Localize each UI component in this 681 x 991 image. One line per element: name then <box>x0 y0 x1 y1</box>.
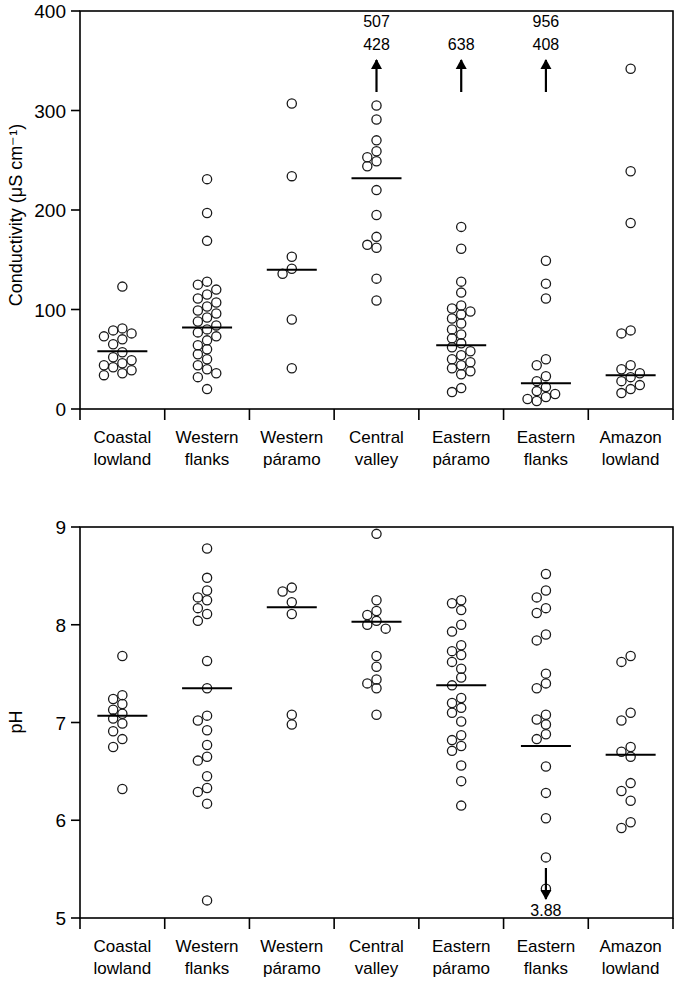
data-point <box>202 385 211 394</box>
data-point <box>457 761 466 770</box>
category-label: Coastal <box>94 937 152 956</box>
data-point <box>541 853 550 862</box>
data-point <box>541 586 550 595</box>
data-point <box>447 325 456 334</box>
ytick-label: 8 <box>55 615 66 636</box>
data-point <box>118 719 127 728</box>
data-point <box>626 818 635 827</box>
data-point <box>372 529 381 538</box>
ph-panel: pH 56789 3.88 CoastallowlandWesternflank… <box>0 500 681 991</box>
outlier-value-label: 507 <box>363 13 390 30</box>
ph-category-labels: CoastallowlandWesternflanksWesternpáramo… <box>94 937 662 978</box>
data-point <box>118 651 127 660</box>
data-point <box>287 172 296 181</box>
data-point <box>447 698 456 707</box>
data-point <box>532 361 541 370</box>
data-point <box>202 609 211 618</box>
ph-data-points <box>109 529 636 905</box>
ph-ylabel: pH <box>6 710 26 733</box>
data-point <box>457 339 466 348</box>
ytick-label: 5 <box>55 908 66 929</box>
data-point <box>212 332 221 341</box>
data-point <box>109 727 118 736</box>
data-point <box>372 210 381 219</box>
data-point <box>447 343 456 352</box>
category-label: flanks <box>524 959 568 978</box>
ph-svg: pH 56789 3.88 CoastallowlandWesternflank… <box>0 500 681 991</box>
data-point <box>363 153 372 162</box>
ytick-label: 300 <box>34 101 66 122</box>
category-label: valley <box>355 450 399 469</box>
data-point <box>109 694 118 703</box>
data-point <box>202 596 211 605</box>
data-point <box>372 684 381 693</box>
data-point <box>287 710 296 719</box>
category-label: lowland <box>94 959 152 978</box>
data-point <box>363 162 372 171</box>
data-point <box>202 290 211 299</box>
data-point <box>118 691 127 700</box>
data-point <box>626 361 635 370</box>
data-point <box>541 630 550 639</box>
category-label: Western <box>260 937 323 956</box>
data-point <box>532 593 541 602</box>
data-point <box>457 777 466 786</box>
data-point <box>202 783 211 792</box>
data-point <box>118 359 127 368</box>
data-point <box>118 735 127 744</box>
category-label: páramo <box>263 450 321 469</box>
data-point <box>457 673 466 682</box>
data-point <box>457 330 466 339</box>
data-point <box>626 651 635 660</box>
data-point <box>118 699 127 708</box>
data-point <box>202 740 211 749</box>
data-point <box>541 355 550 364</box>
data-point <box>109 705 118 714</box>
data-point <box>287 99 296 108</box>
conductivity-panel: Conductivity (μS cm⁻¹) 0100200300400 507… <box>0 0 681 500</box>
data-point <box>372 136 381 145</box>
ytick-label: 0 <box>55 399 66 420</box>
data-point <box>532 608 541 617</box>
data-point <box>457 641 466 650</box>
data-point <box>193 361 202 370</box>
data-point <box>457 351 466 360</box>
data-point <box>278 587 287 596</box>
data-point <box>457 370 466 379</box>
data-point <box>626 752 635 761</box>
data-point <box>202 752 211 761</box>
category-label: Eastern <box>432 428 491 447</box>
data-point <box>212 285 221 294</box>
data-point <box>626 373 635 382</box>
data-point <box>109 353 118 362</box>
data-point <box>109 326 118 335</box>
data-point <box>532 396 541 405</box>
data-point <box>541 372 550 381</box>
data-point <box>372 606 381 615</box>
data-point <box>532 715 541 724</box>
data-point <box>532 386 541 395</box>
up-arrow-head <box>371 59 382 69</box>
data-point <box>617 823 626 832</box>
outlier-value-label: 408 <box>533 36 560 53</box>
data-point <box>99 361 108 370</box>
outlier-value-label: 428 <box>363 36 390 53</box>
data-point <box>457 620 466 629</box>
data-point <box>617 388 626 397</box>
category-label: Eastern <box>517 428 576 447</box>
category-label: lowland <box>602 959 660 978</box>
conductivity-svg: Conductivity (μS cm⁻¹) 0100200300400 507… <box>0 0 681 500</box>
category-label: Eastern <box>432 937 491 956</box>
data-point <box>118 709 127 718</box>
data-point <box>202 355 211 364</box>
data-point <box>541 679 550 688</box>
data-point <box>617 657 626 666</box>
data-point <box>541 814 550 823</box>
data-point <box>617 377 626 386</box>
figure-container: Conductivity (μS cm⁻¹) 0100200300400 507… <box>0 0 681 991</box>
data-point <box>447 364 456 373</box>
data-point <box>457 244 466 253</box>
data-point <box>447 708 456 717</box>
data-point <box>466 358 475 367</box>
category-label: Western <box>176 937 239 956</box>
